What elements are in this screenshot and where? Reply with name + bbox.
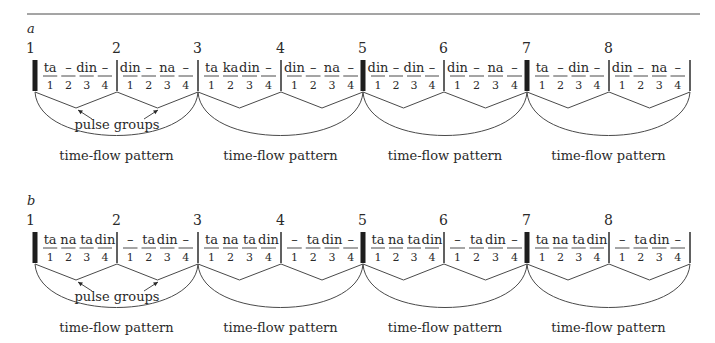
syllable: na [552, 232, 568, 247]
pulse-count: 1 [375, 79, 382, 92]
syllable: – [675, 60, 682, 75]
barline [689, 232, 690, 263]
time-flow-label: time-flow pattern [59, 148, 174, 163]
measure-number: 3 [193, 40, 202, 56]
pulse-group-bracket [363, 92, 444, 108]
syllable: din [422, 232, 443, 247]
pulse-count: 1 [539, 251, 546, 264]
syllable: na [487, 60, 503, 75]
measure-number: 4 [276, 40, 285, 56]
syllable: na [222, 232, 238, 247]
syllable: ta [408, 232, 421, 247]
measure-number: 8 [604, 212, 613, 228]
measure-6: din1–2na3–4 [447, 60, 522, 92]
measure-number: 3 [193, 212, 202, 228]
pulse-count: 3 [575, 251, 582, 264]
syllable: – [183, 60, 190, 75]
pulse-count: 4 [593, 79, 600, 92]
measure-6: –1ta2din3–4 [450, 232, 522, 264]
time-flow-label: time-flow pattern [388, 320, 503, 335]
syllable: – [291, 232, 298, 247]
syllable: din [284, 60, 305, 75]
measure-5: ta1na2ta3din4 [371, 232, 443, 264]
pulse-count: 3 [492, 251, 499, 264]
measure-number: 1 [26, 212, 35, 228]
sections: a12345678ta1–2din3–4din1–2na3–4ta1ka2din… [26, 21, 691, 335]
syllable: – [454, 232, 461, 247]
pulse-group-bracket [198, 92, 281, 108]
thick-barline [361, 60, 366, 91]
pulse-count: 4 [511, 251, 518, 264]
pulse-count: 2 [65, 79, 72, 92]
syllable: din [321, 232, 342, 247]
syllable: ta [470, 232, 483, 247]
syllable: ta [142, 232, 155, 247]
time-flow-arc [198, 264, 363, 308]
pulse-count: 1 [127, 251, 134, 264]
thick-barline [361, 232, 366, 263]
syllable: ta [536, 232, 549, 247]
syllable: din [94, 232, 115, 247]
measure-number: 7 [522, 40, 531, 56]
syllable: ta [44, 60, 57, 75]
pulse-group-bracket [363, 264, 444, 280]
pulse-count: 4 [101, 251, 108, 264]
syllable: – [347, 232, 354, 247]
measure-3: ta1na2ta3din4 [204, 232, 280, 264]
pulse-count: 3 [164, 251, 171, 264]
time-flow-label: time-flow pattern [223, 148, 338, 163]
syllable: ta [536, 60, 549, 75]
syllable: ta [205, 232, 218, 247]
pulse-count: 1 [375, 251, 382, 264]
pulse-count: 2 [65, 251, 72, 264]
pulse-group-bracket [527, 92, 609, 108]
measure-1: ta1–2din3–4 [43, 60, 112, 92]
time-flow-arc [363, 264, 527, 308]
pulse-groups-label: pulse groups [74, 289, 159, 304]
pulse-count: 4 [265, 79, 272, 92]
syllable: din [612, 60, 633, 75]
syllable: din [120, 60, 141, 75]
pulse-count: 1 [208, 79, 215, 92]
barline [608, 232, 609, 263]
pulse-count: 1 [208, 251, 215, 264]
syllable: na [60, 232, 76, 247]
pulse-count: 2 [473, 79, 480, 92]
barline [280, 60, 281, 91]
pulse-count: 4 [674, 79, 681, 92]
section-label: b [27, 193, 35, 208]
barline [443, 60, 444, 91]
syllable: ka [223, 60, 239, 75]
measure-number: 1 [26, 40, 35, 56]
thick-barline [525, 232, 530, 263]
time-flow-label: time-flow pattern [551, 148, 666, 163]
barline [197, 232, 198, 263]
syllable: na [388, 232, 404, 247]
pulse-count: 4 [101, 79, 108, 92]
barline [443, 232, 444, 263]
syllable: – [127, 232, 134, 247]
time-flow-label: time-flow pattern [551, 320, 666, 335]
section-b: b12345678ta1na2ta3din4–1ta2din3–4ta1na2t… [26, 193, 691, 335]
syllable: din [568, 60, 589, 75]
pulse-count: 2 [473, 251, 480, 264]
pulse-count: 4 [265, 251, 272, 264]
time-flow-arc [527, 92, 690, 136]
measure-number: 4 [276, 212, 285, 228]
measure-7: ta1–2din3–4 [535, 60, 604, 92]
time-flow-label: time-flow pattern [59, 320, 174, 335]
syllable: din [485, 232, 506, 247]
pulse-count: 2 [310, 251, 317, 264]
measure-3: ta1ka2din3–4 [204, 60, 276, 92]
syllable: – [102, 60, 109, 75]
time-flow-label: time-flow pattern [388, 148, 503, 163]
pulse-count: 4 [593, 251, 600, 264]
pulse-count: 2 [557, 251, 564, 264]
pulse-count: 1 [454, 251, 461, 264]
pulse-count: 2 [393, 251, 400, 264]
syllable: – [511, 60, 518, 75]
pulse-count: 4 [511, 79, 518, 92]
pulse-groups-label: pulse groups [74, 117, 159, 132]
measure-number: 2 [112, 40, 121, 56]
syllable: – [594, 60, 601, 75]
